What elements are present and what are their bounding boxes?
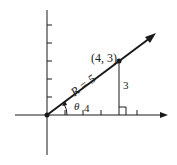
- point-label: (4, 3): [91, 51, 117, 65]
- x-axis-arrow-icon: [160, 112, 168, 118]
- polar-vector-diagram: (4, 3) R = 5 θ 4 3: [0, 0, 177, 165]
- vector-r: [47, 38, 150, 115]
- origin-dot: [45, 113, 50, 118]
- angle-label: θ: [74, 100, 80, 112]
- angle-arc: [64, 104, 67, 115]
- point-dot: [117, 59, 122, 64]
- opposite-label: 3: [123, 79, 129, 91]
- y-ticks: [47, 25, 52, 97]
- right-angle-marker: [119, 107, 126, 115]
- adjacent-label: 4: [84, 102, 90, 114]
